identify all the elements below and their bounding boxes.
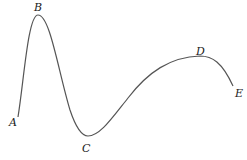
point-label-b: B (33, 1, 42, 14)
curve-path (18, 15, 233, 136)
curve-diagram: A B C D E (0, 0, 247, 160)
point-label-c: C (82, 142, 91, 155)
point-label-e: E (234, 87, 243, 100)
point-label-a: A (8, 116, 17, 129)
point-label-d: D (195, 45, 205, 58)
